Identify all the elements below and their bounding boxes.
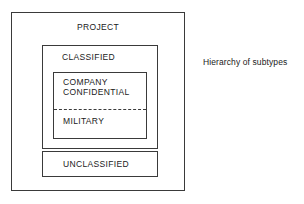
box-military-label: MILITARY (63, 116, 104, 127)
box-project-label: PROJECT (12, 22, 184, 33)
diagram-canvas: PROJECT CLASSIFIED COMPANY CONFIDENTIAL … (0, 0, 304, 204)
dashed-divider (54, 109, 146, 110)
diagram-caption: Hierarchy of subtypes (203, 57, 287, 68)
box-company-confidential-label-line2: CONFIDENTIAL (63, 88, 130, 98)
box-project: PROJECT CLASSIFIED COMPANY CONFIDENTIAL … (11, 12, 185, 191)
box-classified-label: CLASSIFIED (62, 52, 115, 63)
box-company-confidential-label: COMPANY CONFIDENTIAL (63, 78, 130, 97)
box-company-confidential-military: COMPANY CONFIDENTIAL MILITARY (53, 72, 147, 139)
box-classified: CLASSIFIED COMPANY CONFIDENTIAL MILITARY (42, 45, 158, 149)
box-unclassified: UNCLASSIFIED (42, 151, 158, 177)
box-unclassified-label: UNCLASSIFIED (63, 159, 129, 170)
